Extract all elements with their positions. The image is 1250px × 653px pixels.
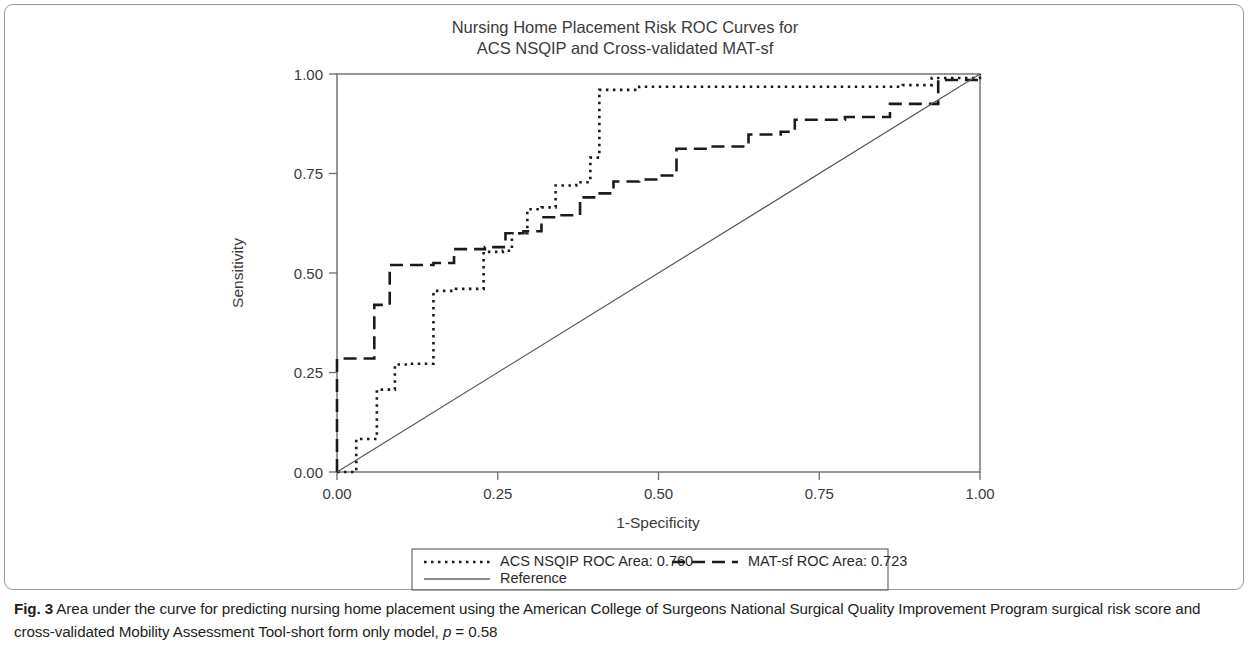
x-tick-label-2: 0.50 (644, 485, 673, 502)
caption-p-value: = 0.58 (451, 623, 497, 640)
caption-p-symbol: p (443, 623, 451, 640)
x-axis-label: 1-Specificity (616, 514, 700, 531)
y-tick-label-3: 0.75 (294, 165, 323, 182)
caption-body: Area under the curve for predicting nurs… (14, 600, 1200, 640)
roc-chart: Nursing Home Placement Risk ROC Curves f… (0, 0, 1250, 596)
chart-title-line-2: ACS NSQIP and Cross-validated MAT-sf (477, 39, 774, 57)
legend-label-2: Reference (500, 570, 567, 586)
roc-series-layer (337, 74, 980, 472)
x-tick-label-3: 0.75 (805, 485, 834, 502)
y-axis-ticks (329, 74, 337, 472)
legend-label-0: ACS NSQIP ROC Area: 0.760 (500, 553, 693, 569)
y-tick-label-4: 1.00 (294, 66, 323, 83)
y-tick-label-0: 0.00 (294, 464, 323, 481)
x-tick-label-1: 0.25 (483, 485, 512, 502)
x-axis-ticks (337, 472, 980, 480)
y-tick-label-1: 0.25 (294, 364, 323, 381)
y-tick-label-2: 0.50 (294, 265, 323, 282)
x-tick-label-0: 0.00 (322, 485, 351, 502)
figure-number: Fig. 3 (14, 600, 53, 617)
chart-legend: ACS NSQIP ROC Area: 0.760MAT-sf ROC Area… (412, 549, 907, 590)
x-axis-tick-labels: 0.000.250.500.751.00 (322, 485, 994, 502)
y-axis-label: Sensitivity (229, 238, 246, 308)
figure-root: Nursing Home Placement Risk ROC Curves f… (0, 0, 1250, 653)
x-tick-label-4: 1.00 (965, 485, 994, 502)
roc-curve-2 (337, 74, 980, 472)
figure-caption: Fig. 3 Area under the curve for predicti… (14, 597, 1236, 643)
chart-title-line-1: Nursing Home Placement Risk ROC Curves f… (452, 18, 799, 36)
y-axis-tick-labels: 0.000.250.500.751.00 (294, 66, 323, 481)
legend-label-1: MAT-sf ROC Area: 0.723 (748, 553, 907, 569)
